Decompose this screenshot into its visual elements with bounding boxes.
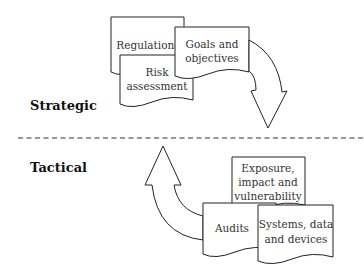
systems-text-line2: and devices (265, 233, 328, 245)
systems-data-devices-document: Systems, data and devices (258, 205, 333, 264)
exposure-text-line3: vulnerability (233, 190, 301, 202)
exposure-text-line2: impact and (238, 176, 298, 188)
strategic-tactical-diagram: Strategic Tactical Regulations Risk asse… (0, 0, 364, 274)
exposure-text-line1: Exposure, (241, 162, 294, 174)
risk-assessment-text-line2: assessment (126, 80, 188, 92)
strategic-label: Strategic (30, 98, 97, 113)
goals-objectives-document: Goals and objectives (175, 27, 249, 79)
risk-assessment-text-line1: Risk (145, 66, 169, 78)
systems-text-line1: Systems, data (259, 218, 333, 230)
curved-down-arrow-icon (249, 40, 287, 128)
tactical-label: Tactical (30, 160, 87, 175)
curved-up-arrow-icon (145, 146, 203, 240)
goals-text-line1: Goals and (186, 38, 239, 50)
regulations-text: Regulations (116, 39, 179, 51)
audits-text: Audits (214, 222, 249, 234)
goals-text-line2: objectives (185, 52, 239, 64)
